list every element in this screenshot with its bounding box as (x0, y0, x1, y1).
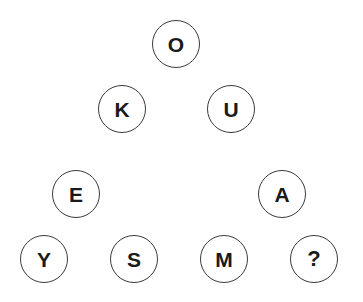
letter-circle-o[interactable]: O (152, 20, 200, 68)
letter-label: O (168, 34, 184, 55)
letter-label: S (127, 249, 141, 270)
letter-label: E (69, 184, 83, 205)
letter-label: A (274, 184, 289, 205)
letter-circles-diagram: OKUEAYSM? (0, 0, 363, 302)
letter-circle-unknown[interactable]: ? (290, 235, 338, 283)
letter-circle-k[interactable]: K (98, 85, 146, 133)
letter-circle-a[interactable]: A (258, 170, 306, 218)
letter-label: K (114, 99, 129, 120)
letter-circle-s[interactable]: S (110, 235, 158, 283)
letter-label: Y (37, 249, 51, 270)
letter-circle-e[interactable]: E (52, 170, 100, 218)
letter-circle-y[interactable]: Y (20, 235, 68, 283)
letter-label: ? (307, 248, 320, 270)
letter-label: U (223, 99, 238, 120)
letter-circle-m[interactable]: M (200, 235, 248, 283)
letter-label: M (215, 249, 233, 270)
letter-circle-u[interactable]: U (207, 85, 255, 133)
